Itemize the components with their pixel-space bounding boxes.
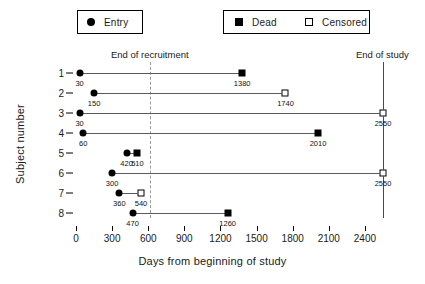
subject-followup-line (133, 213, 228, 214)
x-tick-mark (76, 226, 77, 231)
censored-point-marker (138, 190, 145, 197)
entry-value-label: 150 (88, 99, 101, 108)
y-tick-mark (66, 133, 73, 134)
entry-value-label: 300 (106, 179, 119, 188)
y-tick-label-6: 6 (40, 168, 64, 179)
dead-point-marker (134, 150, 141, 157)
outcome-value-label: 2550 (375, 119, 392, 128)
end-of-recruitment-line (150, 62, 151, 218)
outcome-value-label: 510 (131, 159, 144, 168)
censored-point-marker (380, 170, 387, 177)
figure-canvas: Entry Dead Censored End of recruitment E… (0, 0, 425, 284)
entry-value-label: 360 (113, 199, 126, 208)
y-tick-label-1: 1 (40, 68, 64, 79)
entry-point-marker (80, 130, 87, 137)
entry-point-marker (129, 210, 136, 217)
outcome-value-label: 2550 (375, 179, 392, 188)
entry-value-label: 30 (75, 119, 83, 128)
outcome-value-label: 2010 (310, 139, 327, 148)
x-tick-label-1200: 1200 (209, 233, 231, 244)
dead-point-marker (239, 70, 246, 77)
y-tick-label-7: 7 (40, 188, 64, 199)
y-tick-mark (66, 113, 73, 114)
end-of-study-line (383, 62, 384, 218)
x-tick-label-2400: 2400 (354, 233, 376, 244)
outcome-value-label: 1740 (277, 99, 294, 108)
x-tick-mark (112, 226, 113, 231)
plot-area: 3013801501740302550602010420510300255036… (0, 0, 425, 284)
entry-value-label: 470 (126, 219, 139, 228)
x-tick-mark (184, 226, 185, 231)
entry-value-label: 60 (79, 139, 87, 148)
y-tick-mark (66, 213, 73, 214)
entry-point-marker (116, 190, 123, 197)
dead-point-marker (224, 210, 231, 217)
entry-point-marker (109, 170, 116, 177)
entry-point-marker (76, 110, 83, 117)
x-tick-label-2100: 2100 (318, 233, 340, 244)
censored-point-marker (380, 110, 387, 117)
entry-point-marker (91, 90, 98, 97)
y-tick-label-5: 5 (40, 148, 64, 159)
subject-followup-line (83, 133, 318, 134)
y-tick-mark (66, 193, 73, 194)
x-tick-label-900: 900 (176, 233, 193, 244)
dead-point-marker (314, 130, 321, 137)
subject-followup-line (80, 73, 243, 74)
y-tick-label-3: 3 (40, 108, 64, 119)
outcome-value-label: 1260 (219, 219, 236, 228)
x-axis-title: Days from beginning of study (0, 255, 425, 267)
y-tick-mark (66, 93, 73, 94)
y-tick-mark (66, 73, 73, 74)
x-tick-label-0: 0 (73, 233, 79, 244)
x-tick-label-300: 300 (104, 233, 121, 244)
outcome-value-label: 1380 (234, 79, 251, 88)
x-tick-mark (293, 226, 294, 231)
censored-point-marker (282, 90, 289, 97)
outcome-value-label: 540 (135, 199, 148, 208)
x-tick-mark (257, 226, 258, 231)
x-tick-mark (329, 226, 330, 231)
y-tick-label-4: 4 (40, 128, 64, 139)
entry-point-marker (123, 150, 130, 157)
subject-followup-line (94, 93, 285, 94)
y-tick-label-2: 2 (40, 88, 64, 99)
y-tick-label-8: 8 (40, 208, 64, 219)
x-tick-label-1800: 1800 (282, 233, 304, 244)
entry-point-marker (76, 70, 83, 77)
y-tick-mark (66, 153, 73, 154)
subject-followup-line (80, 113, 383, 114)
entry-value-label: 30 (75, 79, 83, 88)
y-tick-mark (66, 173, 73, 174)
x-tick-mark (148, 226, 149, 231)
x-tick-label-600: 600 (140, 233, 157, 244)
x-tick-label-1500: 1500 (245, 233, 267, 244)
subject-followup-line (112, 173, 383, 174)
y-axis-title: Subject number (14, 84, 26, 204)
x-tick-mark (365, 226, 366, 231)
x-tick-mark (220, 226, 221, 231)
